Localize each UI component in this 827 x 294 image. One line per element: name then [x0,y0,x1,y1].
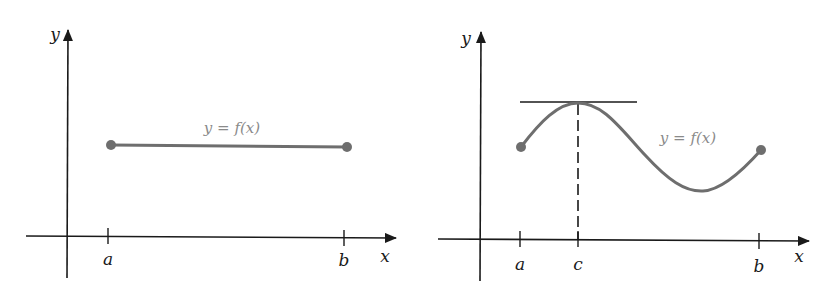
left-endpoint-a [106,140,116,150]
right-tick-label-b: b [754,256,765,276]
right-tick-label-a: a [515,254,525,274]
left-y-axis [67,30,68,278]
right-x-axis-label: x [794,246,804,266]
right-curve [521,103,761,191]
left-constant-curve [111,145,347,147]
left-curve-label: y = f(x) [203,119,260,137]
left-tick-label-b: b [339,250,350,270]
right-endpoint-a [516,142,526,152]
right-y-axis [480,32,481,281]
rolle-theorem-figure: y = f(x) y x a b y = f(x) y x a c b [0,0,827,294]
left-x-axis-label: x [380,246,390,266]
left-endpoint-b [342,142,352,152]
right-y-axis-label: y [460,28,471,48]
left-x-axis [26,236,396,238]
right-curve-label: y = f(x) [659,129,716,147]
right-panel: y = f(x) y x a c b [438,28,809,281]
left-panel: y = f(x) y x a b [26,24,396,278]
right-x-axis [438,239,809,241]
right-endpoint-b [756,145,766,155]
right-tick-label-c: c [573,254,583,274]
left-tick-label-a: a [103,249,113,269]
left-y-axis-label: y [49,24,60,44]
